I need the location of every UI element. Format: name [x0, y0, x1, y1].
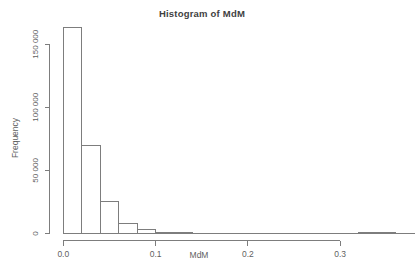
histogram-bar — [174, 233, 193, 234]
histogram-bar — [82, 145, 101, 233]
histogram-bar — [63, 28, 82, 234]
y-tick-label: 50 000 — [31, 158, 40, 183]
histogram-bar — [100, 201, 119, 233]
histogram-bar — [137, 229, 156, 233]
y-tick-label: 100 000 — [31, 92, 40, 121]
x-axis-label: MdM — [60, 250, 338, 260]
histogram-bar — [119, 224, 138, 234]
histogram-bar — [377, 232, 396, 233]
y-tick-label: 0 — [31, 231, 40, 236]
plot-canvas: 050 000100 000150 0000.00.10.20.3 — [0, 0, 417, 278]
histogram-bar — [156, 233, 175, 234]
y-tick-label: 150 000 — [31, 29, 40, 58]
histogram-figure: Histogram of MdM Frequency 050 000100 00… — [0, 0, 417, 278]
histogram-bar — [359, 232, 378, 233]
